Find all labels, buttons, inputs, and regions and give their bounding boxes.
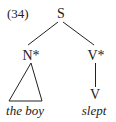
node-s: S — [57, 7, 65, 21]
node-v-star: V* — [87, 49, 104, 63]
leaf-the-boy: the boy — [6, 104, 44, 118]
node-v: V — [90, 88, 100, 102]
example-number: (34) — [7, 7, 29, 21]
triangle-n-star — [9, 63, 42, 101]
syntax-tree-diagram: (34) S N* V* V the boy slept — [0, 0, 116, 122]
leaf-slept: slept — [82, 104, 107, 118]
edge-s-to-n-star — [28, 22, 58, 45]
node-n-star: N* — [22, 49, 39, 63]
edge-s-to-v-star — [63, 22, 94, 45]
